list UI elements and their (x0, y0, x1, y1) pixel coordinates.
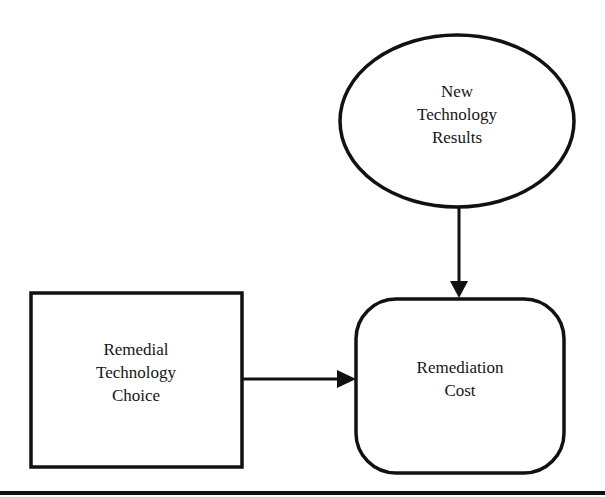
new-technology-results-label: New Technology Results (377, 80, 537, 149)
label-line: Choice (56, 384, 216, 407)
label-line: New (377, 80, 537, 103)
arrow-right-to-remediation-cost (242, 370, 356, 388)
label-line: Technology (56, 361, 216, 384)
label-line: Remediation (380, 356, 540, 379)
label-line: Results (377, 126, 537, 149)
label-line: Cost (380, 379, 540, 402)
diagram-canvas (0, 0, 605, 497)
remedial-technology-choice-label: Remedial Technology Choice (56, 338, 216, 407)
label-line: Remedial (56, 338, 216, 361)
label-line: Technology (377, 103, 537, 126)
remediation-cost-label: Remediation Cost (380, 356, 540, 402)
arrow-down-to-remediation-cost (450, 207, 468, 298)
